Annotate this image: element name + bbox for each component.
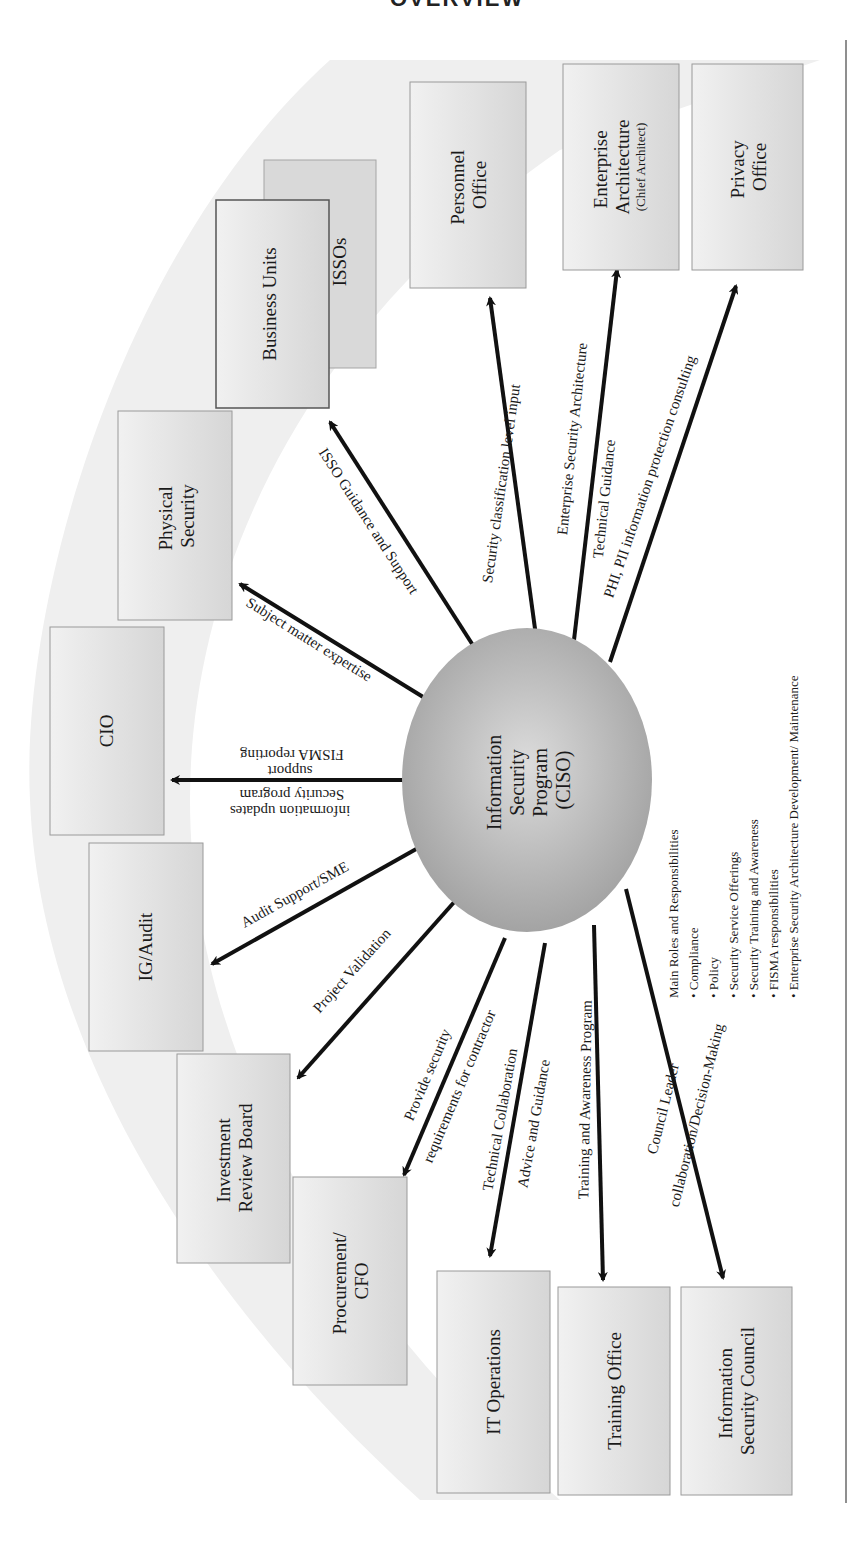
edge-label-investment-review: Project Validation (310, 925, 394, 1016)
box-label: Physical (155, 486, 176, 550)
svg-text:• Policy: • Policy (706, 956, 721, 998)
svg-text:ISSOs: ISSOs (329, 238, 350, 287)
svg-text:Security program informa: Security program information updates (230, 787, 351, 819)
box-training-office: Training Office (558, 1287, 670, 1495)
roles-item: Security Service Offerings (726, 852, 741, 990)
svg-text:Enterprise Security Architectu: Enterprise Security Architecture (554, 342, 590, 536)
center-label: (CISO) (552, 751, 575, 810)
center-node-ciso: Information Security Program (CISO) (402, 628, 652, 932)
svg-text:Physical Security: Physical Security (155, 481, 198, 550)
svg-text:(Chief Architect): (Chief Architect) (633, 123, 648, 211)
box-label: Security Council (737, 1327, 758, 1455)
running-header: OVERVIEW (390, 0, 524, 11)
edge-label-cio: support (267, 763, 313, 779)
edge-label-training: Training and Awareness Program (575, 1000, 594, 1200)
svg-text:Business Units: Business Units (259, 247, 280, 361)
box-label: Architecture (612, 120, 633, 215)
svg-text:Enterprise Architecture: Enterprise Architecture (590, 120, 633, 215)
roles-item: Security Training and Awareness (746, 819, 761, 990)
center-label: Information (483, 735, 505, 831)
box-label: Business Units (259, 247, 280, 361)
arrow-training-office (594, 925, 603, 1280)
box-enterprise-architecture: Enterprise Architecture (Chief Architect… (563, 64, 679, 270)
edge-label-privacy: PHI, PII information protection consulti… (600, 353, 698, 600)
edge-label-physical-security: Subject matter expertise (243, 594, 375, 685)
svg-text:Training Office: Training Office (604, 1332, 625, 1450)
box-label: CFO (351, 1263, 372, 1300)
box-label: CIO (96, 715, 117, 748)
edge-label-council: Council Leader (644, 1062, 682, 1156)
roles-and-responsibilities: Main Roles and Responsibilities • Compli… (666, 675, 801, 998)
center-label: Program (529, 748, 552, 817)
center-label: Security (506, 749, 529, 816)
diagram-canvas: OVERVIEW Personnel Office Enterprise Arc… (0, 0, 850, 1554)
box-sublabel: (Chief Architect) (633, 123, 648, 211)
box-ig-audit: IG/Audit (89, 843, 203, 1051)
box-label: IG/Audit (135, 912, 156, 981)
box-label: Investment (213, 1117, 234, 1202)
box-privacy-office: Privacy Office (692, 64, 803, 270)
edge-label-cio: Security program (239, 787, 344, 803)
svg-text:• Enterprise Security Archite: • Enterprise Security Architecture Devel… (786, 675, 801, 998)
box-label: Review Board (235, 1103, 256, 1213)
roles-item: Compliance (686, 927, 701, 990)
arrow-ig-audit (212, 848, 418, 964)
roles-item: Enterprise Security Architecture Develop… (786, 675, 801, 990)
svg-text:• FISMA responsibilities: • FISMA responsibilities (766, 869, 781, 998)
roles-item: FISMA responsibilities (766, 869, 781, 990)
box-label: IT Operations (483, 1329, 504, 1435)
svg-text:Subject matter expertise: Subject matter expertise (243, 594, 375, 685)
edge-label-business-units: ISSO Guidance and Support (316, 445, 423, 597)
edge-label-council: collaboration/Decision-Making (666, 1021, 727, 1208)
svg-text:CIO: CIO (96, 715, 117, 748)
svg-text:FISMA reporting support: FISMA reporting support (236, 747, 344, 779)
arrow-physical-security (240, 584, 428, 700)
box-label: Office (749, 143, 770, 191)
svg-text:ISSO Guidance and Support: ISSO Guidance and Support (316, 445, 423, 597)
edge-label-cio: FISMA reporting (240, 747, 344, 763)
box-procurement-cfo: Procurement/ CFO (293, 1177, 407, 1385)
svg-text:• Security Training and Aware: • Security Training and Awareness (746, 819, 761, 998)
box-label: Information (715, 1348, 736, 1439)
edge-label-cio: information updates (230, 803, 351, 819)
box-it-operations: IT Operations (437, 1271, 550, 1493)
box-investment-review-board: Investment Review Board (177, 1054, 290, 1263)
box-physical-security: Physical Security (118, 411, 232, 620)
svg-text:IG/Audit: IG/Audit (135, 912, 156, 981)
box-label: ISSOs (329, 238, 350, 287)
box-personnel-office: Personnel Office (410, 82, 526, 288)
svg-text:Privacy Office: Privacy Office (727, 136, 770, 199)
svg-text:IT Operations: IT Operations (483, 1329, 504, 1435)
box-label: Office (469, 161, 490, 209)
svg-text:PHI, PII information protectio: PHI, PII information protection consulti… (600, 353, 698, 600)
svg-text:Project Validation: Project Validation (310, 925, 394, 1016)
svg-text:• Compliance: • Compliance (686, 927, 701, 998)
box-business-units: Business Units (216, 200, 329, 408)
edge-label-enterprise-arch: Enterprise Security Architecture (554, 342, 590, 536)
box-label: Procurement/ (329, 1231, 350, 1334)
svg-text:Information Security Cou: Information Security Council (715, 1327, 758, 1455)
svg-text:Technical Collaboration: Technical Collaboration Advice and Guida… (479, 1043, 554, 1198)
box-label: Training Office (604, 1332, 625, 1450)
box-cio: CIO (50, 627, 164, 835)
svg-text:• Security Service Offerings: • Security Service Offerings (726, 852, 741, 998)
svg-text:Investment Review Board: Investment Review Board (213, 1103, 256, 1213)
box-label: Security (177, 484, 198, 548)
box-label: Privacy (727, 140, 748, 199)
arrow-business-units (330, 422, 476, 650)
roles-item: Policy (706, 956, 721, 990)
box-label: Personnel (447, 150, 468, 225)
box-label: Enterprise (590, 130, 611, 208)
box-information-security-council: Information Security Council (681, 1287, 792, 1495)
arrow-privacy-office (610, 286, 736, 662)
roles-title: Main Roles and Responsibilities (666, 829, 681, 998)
svg-text:Training and Awareness Program: Training and Awareness Program (575, 1000, 594, 1200)
edge-label-procurement: requirements for contractor (420, 1008, 499, 1165)
